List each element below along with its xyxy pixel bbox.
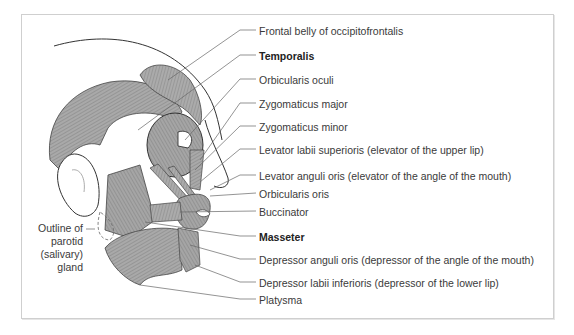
platysma-muscle — [105, 228, 182, 285]
label-orbicularis-oculi: Orbicularis oculi — [259, 74, 334, 86]
label-levator-labii-superioris: Levator labii superioris (elevator of th… — [259, 144, 484, 156]
label-zygomaticus-minor: Zygomaticus minor — [259, 121, 348, 133]
parotid-line-1: Outline of — [38, 222, 83, 235]
eye — [178, 131, 192, 148]
parotid-line-4: gland — [38, 261, 83, 274]
label-depressor-anguli-oris: Depressor anguli oris (depressor of the … — [259, 254, 534, 266]
parotid-line-3: (salivary) — [38, 248, 83, 261]
label-masseter: Masseter — [259, 231, 305, 243]
label-buccinator: Buccinator — [259, 206, 309, 218]
ear — [58, 154, 100, 216]
levator-labii-muscle — [190, 150, 204, 190]
label-frontal-belly-of-occipitofrontalis: Frontal belly of occipitofrontalis — [259, 25, 403, 37]
label-levator-anguli-oris: Levator anguli oris (elevator of the ang… — [259, 170, 511, 182]
buccinator-muscle — [150, 202, 182, 222]
parotid-line-2: parotid — [38, 235, 83, 248]
label-depressor-labii-inferioris: Depressor labii inferioris (depressor of… — [259, 277, 499, 289]
label-zygomaticus-major: Zygomaticus major — [259, 98, 348, 110]
label-temporalis: Temporalis — [259, 50, 314, 62]
label-platysma: Platysma — [259, 294, 302, 306]
masseter-muscle — [105, 165, 155, 238]
label-orbicularis-oris: Orbicularis oris — [259, 188, 329, 200]
nose-outline — [205, 120, 228, 188]
label-parotid-gland: Outline of parotid (salivary) gland — [38, 222, 83, 274]
